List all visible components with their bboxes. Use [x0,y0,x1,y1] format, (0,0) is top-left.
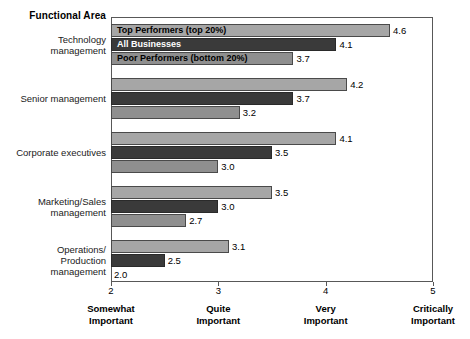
category-label: Senior management [6,93,106,104]
bar [111,240,229,253]
x-tick-caption-line: Important [281,315,371,327]
bar [111,186,272,199]
bar-value-label: 2.0 [111,268,127,281]
bar-row: 3.7Poor Performers (bottom 20%) [111,52,433,65]
bar-row: 3.0 [111,200,433,213]
x-tick-caption: CriticallyImportant [388,303,470,326]
bar-value-label: 4.2 [347,78,363,91]
category-label-line: Production [6,255,106,266]
bar [111,214,186,227]
category-label-line: management [6,207,106,218]
x-tick-caption-line: Very [281,303,371,315]
category-label: Corporate executives [6,147,106,158]
bar-row: 4.1 [111,132,433,145]
x-tick-caption-line: Somewhat [66,303,156,315]
bar [111,92,293,105]
x-tick-caption-line: Important [388,315,470,327]
bar-row: 3.1 [111,240,433,253]
bar-value-label: 4.1 [336,38,352,51]
bar-row: 4.2 [111,78,433,91]
bar-value-label: 2.5 [165,254,181,267]
x-tick-caption-line: Important [66,315,156,327]
bar-row: 2.7 [111,214,433,227]
x-tick-caption-line: Quite [173,303,263,315]
category-label-line: management [6,45,106,56]
bar-value-label: 3.7 [293,92,309,105]
bar-row: 3.0 [111,160,433,173]
bar-value-label: 4.6 [390,24,406,37]
bar [111,146,272,159]
category-label-line: Technology [6,34,106,45]
bar-value-label: 3.1 [229,240,245,253]
axis-title: Functional Area [8,10,106,21]
bar-row: 4.1All Businesses [111,38,433,51]
bar-value-label: 3.2 [240,106,256,119]
x-tick-label: 2 [96,285,126,296]
x-tick-caption: QuiteImportant [173,303,263,326]
bar-row: 2.0 [111,268,433,281]
bar-value-label: 3.0 [218,160,234,173]
legend-label: All Businesses [111,38,181,51]
category-label: Marketing/Salesmanagement [6,196,106,218]
category-label-line: Corporate executives [6,147,106,158]
bar-value-label: 2.7 [186,214,202,227]
x-tick-label: 5 [418,285,448,296]
legend-label: Poor Performers (bottom 20%) [111,52,248,65]
x-tick-label: 4 [311,285,341,296]
category-label-line: management [6,266,106,277]
x-tick-caption: VeryImportant [281,303,371,326]
x-tick-caption-line: Critically [388,303,470,315]
bar [111,200,218,213]
bar-row: 3.7 [111,92,433,105]
bar-row: 4.6Top Performers (top 20%) [111,24,433,37]
legend-label: Top Performers (top 20%) [111,24,226,37]
category-label: Operations/Productionmanagement [6,244,106,277]
bar [111,78,347,91]
bar-value-label: 3.5 [272,186,288,199]
bar-chart: Functional Area TechnologymanagementSeni… [0,0,470,339]
x-tick-caption: SomewhatImportant [66,303,156,326]
bar [111,106,240,119]
bar-row: 3.5 [111,146,433,159]
bar [111,254,165,267]
category-label: Technologymanagement [6,34,106,56]
bar-value-label: 3.7 [293,52,309,65]
bar [111,132,336,145]
bar [111,160,218,173]
bar-row: 2.5 [111,254,433,267]
bar-row: 3.2 [111,106,433,119]
bar-row: 3.5 [111,186,433,199]
bar-value-label: 3.0 [218,200,234,213]
category-label-line: Senior management [6,93,106,104]
x-tick-caption-line: Important [173,315,263,327]
bar-value-label: 3.5 [272,146,288,159]
category-label-line: Marketing/Sales [6,196,106,207]
category-label-line: Operations/ [6,244,106,255]
x-tick-label: 3 [203,285,233,296]
bar-value-label: 4.1 [336,132,352,145]
